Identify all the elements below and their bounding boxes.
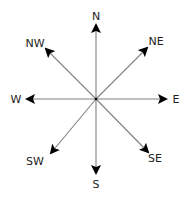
compass-rose-diagram: N NE E SE S SW W NW <box>0 0 187 199</box>
label-se: SE <box>148 152 162 165</box>
label-nw: NW <box>25 37 44 50</box>
label-e: E <box>173 93 180 106</box>
arrow-sw-icon <box>51 99 96 153</box>
arrow-ne-icon <box>96 48 147 99</box>
label-sw: SW <box>26 155 44 168</box>
arrow-nw-icon <box>46 49 96 99</box>
label-s: S <box>93 178 100 191</box>
label-n: N <box>92 10 100 23</box>
label-w: W <box>11 93 22 106</box>
arrow-se-icon <box>96 99 148 152</box>
label-ne: NE <box>148 35 163 48</box>
center-point <box>95 98 98 101</box>
